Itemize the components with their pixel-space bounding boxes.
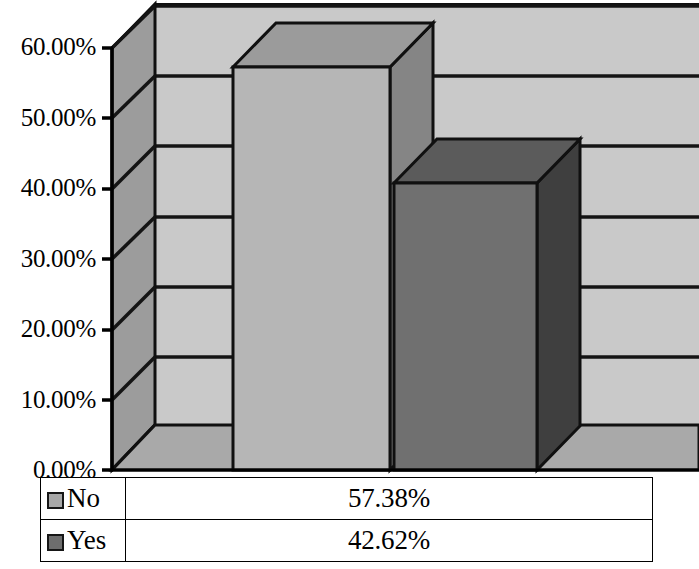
y-tick-label-60: 60.00% xyxy=(0,34,96,59)
bar-yes[interactable] xyxy=(394,139,580,470)
legend-label-yes: Yes xyxy=(67,525,106,556)
legend-key-cell-yes: Yes xyxy=(41,520,126,562)
y-axis-labels: 60.00% 50.00% 40.00% 30.00% 20.00% 10.00… xyxy=(0,0,100,478)
bar-yes-front-face xyxy=(394,183,537,470)
bar-no-front-face xyxy=(233,67,390,470)
legend-data-table: No 57.38% Yes 42.62% xyxy=(40,477,653,562)
legend-swatch-no xyxy=(47,492,64,509)
three-d-bar-chart xyxy=(0,0,699,478)
chart-plot-area: 60.00% 50.00% 40.00% 30.00% 20.00% 10.00… xyxy=(0,0,699,478)
y-tick-label-20: 20.00% xyxy=(0,316,96,341)
y-tick-label-30: 30.00% xyxy=(0,246,96,271)
legend-key-cell-no: No xyxy=(41,478,126,520)
chart-figure: 60.00% 50.00% 40.00% 30.00% 20.00% 10.00… xyxy=(0,0,699,569)
y-tick-label-40: 40.00% xyxy=(0,175,96,200)
legend-swatch-yes xyxy=(47,534,64,551)
table-row[interactable]: No 57.38% xyxy=(41,478,653,520)
legend-value-no: 57.38% xyxy=(126,478,653,520)
legend-label-no: No xyxy=(67,483,100,514)
bar-yes-side-face xyxy=(537,139,580,470)
legend-value-yes: 42.62% xyxy=(126,520,653,562)
table-row[interactable]: Yes 42.62% xyxy=(41,520,653,562)
y-tick-label-10: 10.00% xyxy=(0,387,96,412)
y-tick-label-50: 50.00% xyxy=(0,105,96,130)
